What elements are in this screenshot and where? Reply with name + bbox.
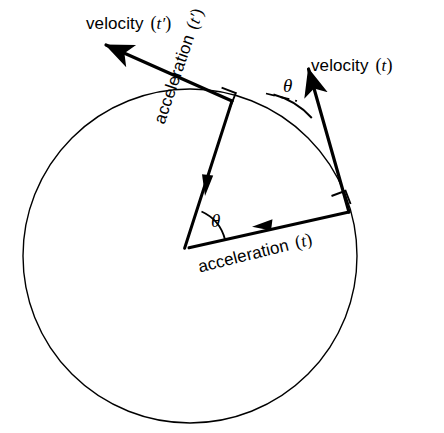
theta-bottom-label: θ <box>211 211 220 230</box>
label-velocity-t: velocity(t) <box>311 56 393 74</box>
label-velocity-t-prime-paren-close: ) <box>165 13 171 33</box>
trajectory-circle <box>23 89 357 423</box>
theta-top-label: θ <box>283 76 292 95</box>
acceleration-t-arrowhead <box>252 219 273 230</box>
label-velocity-t-prime-word: velocity <box>86 14 144 33</box>
label-velocity-t-word: velocity <box>311 56 369 75</box>
velocity-t-vector <box>309 69 350 212</box>
label-velocity-t-prime: velocity(t′) <box>86 14 171 32</box>
label-velocity-t-paren-close: ) <box>386 55 392 75</box>
acceleration-t-prime-vector <box>185 101 232 248</box>
physics-vector-diagram: velocity(t′) velocity(t) acceleration(t′… <box>0 0 444 433</box>
